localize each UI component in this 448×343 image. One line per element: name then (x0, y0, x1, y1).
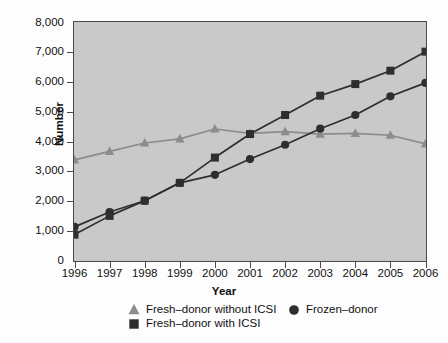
data-point (141, 197, 149, 205)
data-point (280, 127, 289, 136)
series-canvas (74, 22, 426, 261)
chart-legend: Fresh–donor without ICSIFresh–donor with… (0, 303, 448, 331)
data-point (316, 125, 324, 133)
plot-area (73, 21, 427, 262)
data-point (386, 67, 394, 75)
x-tick-label: 2006 (403, 268, 448, 280)
data-point (246, 130, 254, 138)
y-tick-label: 5,000 (0, 106, 64, 118)
y-tick-label: 1,000 (0, 225, 64, 237)
y-tick-label: 3,000 (0, 165, 64, 177)
triangle-marker-icon (128, 304, 139, 315)
series-line (75, 83, 426, 227)
data-point (74, 231, 79, 239)
x-axis-title: Year (0, 285, 448, 297)
circle-marker-icon (288, 304, 299, 315)
data-point (351, 111, 359, 119)
legend-label: Frozen–donor (306, 303, 378, 315)
legend-item[interactable]: Fresh–donor with ICSI (128, 317, 260, 329)
y-tick-label: 4,000 (0, 136, 64, 148)
square-marker-icon (128, 318, 139, 329)
y-tick-label: 2,000 (0, 195, 64, 207)
y-tick-label: 8,000 (0, 17, 64, 29)
data-point (211, 154, 219, 162)
data-point (316, 92, 324, 100)
data-point (74, 223, 79, 231)
data-point (386, 92, 394, 100)
legend-item[interactable]: Fresh–donor without ICSI (128, 303, 276, 315)
data-point (210, 124, 219, 133)
data-point (351, 80, 359, 88)
y-tick-label: 7,000 (0, 46, 64, 58)
data-point (281, 111, 289, 119)
data-point (211, 171, 219, 179)
legend-label: Fresh–donor without ICSI (146, 303, 276, 315)
data-point (106, 208, 114, 216)
data-point (246, 155, 254, 163)
legend-label: Fresh–donor with ICSI (146, 317, 260, 329)
data-point (421, 79, 426, 87)
data-point (422, 48, 427, 56)
figure-chart: Number 01,0002,0003,0004,0005,0006,0007,… (0, 0, 448, 343)
data-point (176, 179, 184, 187)
y-tick-label: 6,000 (0, 76, 64, 88)
y-tick-label: 0 (0, 255, 64, 267)
legend-item[interactable]: Frozen–donor (288, 303, 378, 315)
series-square (74, 48, 426, 239)
data-point (281, 141, 289, 149)
